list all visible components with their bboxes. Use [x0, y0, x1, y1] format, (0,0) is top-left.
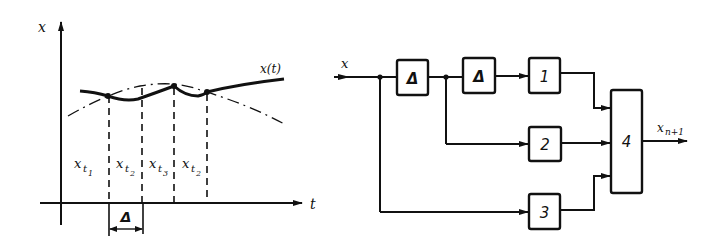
output-subscript: n+1	[665, 127, 684, 137]
sample-point	[105, 93, 111, 99]
input-label: x	[341, 56, 349, 71]
block-3-label: 3	[540, 204, 550, 222]
svg-text:2: 2	[129, 169, 135, 178]
curve-label: x(t)	[260, 62, 281, 76]
interval-label-4: x t 2	[182, 156, 201, 178]
block-4-label: 4	[622, 133, 632, 151]
delta-label: Δ	[120, 209, 132, 225]
block-2-label: 2	[540, 136, 550, 154]
delay-block-1-label: Δ	[406, 70, 419, 88]
svg-text:1: 1	[88, 169, 93, 178]
svg-text:x: x	[116, 156, 124, 171]
output-label: x	[657, 121, 664, 135]
svg-text:3: 3	[163, 169, 168, 178]
interval-label-2: x t 2	[116, 156, 135, 178]
delay-block-2-label: Δ	[472, 68, 485, 86]
block-diagram: x Δ Δ 1 2 3 4 x n+	[334, 56, 687, 229]
y-axis-label: x	[38, 19, 46, 35]
interval-label-1: x t 1	[74, 156, 93, 178]
figure: x t x(t) x t 1 x t 2 x	[0, 0, 724, 245]
block-1-label: 1	[540, 68, 550, 86]
svg-text:2: 2	[195, 169, 201, 178]
svg-text:x: x	[182, 156, 190, 171]
svg-text:x: x	[74, 156, 82, 171]
interval-label-3: x t 3	[149, 156, 168, 178]
svg-text:x: x	[149, 156, 157, 171]
time-series-plot: x t x(t) x t 1 x t 2 x	[38, 19, 316, 236]
x-axis-label: t	[310, 196, 316, 212]
